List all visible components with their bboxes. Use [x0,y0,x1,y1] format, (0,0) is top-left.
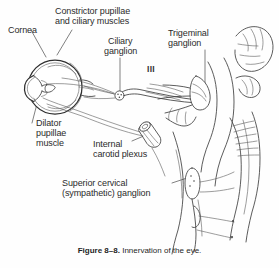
label-superior-cervical-line2: (sympathetic) ganglion [62,188,150,199]
label-ciliary-ganglion-line2: ganglion [104,46,137,57]
figure-caption: Figure 8–8. Innervation of the eye. [0,246,279,255]
label-ciliary-ganglion-line1: Ciliary [108,36,132,47]
label-constrictor-pupillae-line1: Constrictor pupillae [55,6,130,17]
figure-caption-number: Figure 8–8. [78,246,120,255]
trigeminal-ganglion [158,76,210,124]
label-internal-carotid-line2: carotid plexus [93,149,147,160]
label-dilator-pupillae-line1: Dilator [36,118,61,129]
label-constrictor-pupillae-line2: and ciliary muscles [55,16,129,27]
label-dilator-pupillae-line2: pupillae [36,128,66,139]
neck-contour [172,132,183,254]
spinal-cord-and-sympathetic-chain [230,112,260,242]
label-superior-cervical-line1: Superior cervical [62,178,127,189]
label-trigeminal-ganglion-line1: Trigeminal [168,28,209,39]
ciliary-ganglion-marker [115,91,124,100]
oculomotor-nerve-III [84,84,197,103]
label-dilator-pupillae-line3: muscle [36,138,64,149]
eyeball-cross-section [24,60,95,114]
label-trigeminal-ganglion-line2: ganglion [168,38,201,49]
brainstem-and-cerebellum [201,27,273,186]
label-cornea: Cornea [8,25,37,36]
internal-carotid-artery [138,120,161,147]
label-internal-carotid-line1: Internal [93,139,122,150]
label-cranial-nerve-three: III [147,64,155,75]
figure-caption-text: Innervation of the eye. [122,246,201,255]
neck-contour-inner [176,150,182,198]
superior-cervical-ganglion [185,168,234,252]
skull-base-contour [166,117,196,126]
ascending-sympathetic-trunk [152,148,165,176]
figure-container: .ln { fill:none; stroke:#3f3f3f; stroke-… [0,0,279,268]
